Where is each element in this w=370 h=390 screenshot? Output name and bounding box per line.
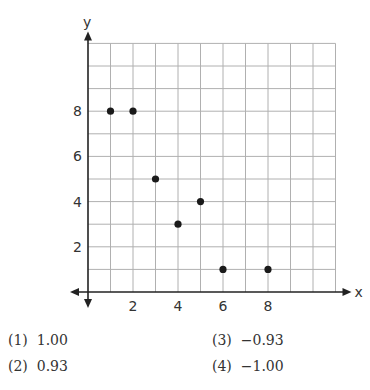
svg-text:8: 8 <box>73 103 82 119</box>
svg-text:4: 4 <box>174 298 183 314</box>
scatter-plot: xy 24682468 <box>0 0 370 320</box>
choice-value: −0.93 <box>241 332 284 348</box>
data-point <box>129 108 136 115</box>
svg-text:8: 8 <box>264 298 273 314</box>
choice-number: (1) <box>8 332 28 348</box>
data-points <box>107 108 272 273</box>
choice-value: 1.00 <box>37 332 68 348</box>
data-point <box>197 198 204 205</box>
choice-3: (3) −0.93 <box>212 332 284 348</box>
svg-text:6: 6 <box>73 148 82 164</box>
svg-text:y: y <box>83 14 91 30</box>
data-point <box>219 266 226 273</box>
svg-text:2: 2 <box>129 298 138 314</box>
svg-text:6: 6 <box>219 298 228 314</box>
svg-text:x: x <box>355 284 363 300</box>
choice-number: (2) <box>8 358 28 374</box>
choice-value: 0.93 <box>37 358 68 374</box>
choice-1: (1) 1.00 <box>8 332 68 348</box>
choice-number: (3) <box>212 332 232 348</box>
svg-text:2: 2 <box>73 239 82 255</box>
data-point <box>152 175 159 182</box>
tick-labels: 24682468 <box>73 103 272 314</box>
choice-number: (4) <box>212 358 232 374</box>
choice-value: −1.00 <box>241 358 284 374</box>
choice-2: (2) 0.93 <box>8 358 68 374</box>
svg-text:4: 4 <box>73 194 82 210</box>
data-point <box>264 266 271 273</box>
grid <box>88 43 336 292</box>
axes: xy <box>70 14 363 308</box>
data-point <box>107 108 114 115</box>
data-point <box>174 221 181 228</box>
choice-4: (4) −1.00 <box>212 358 284 374</box>
